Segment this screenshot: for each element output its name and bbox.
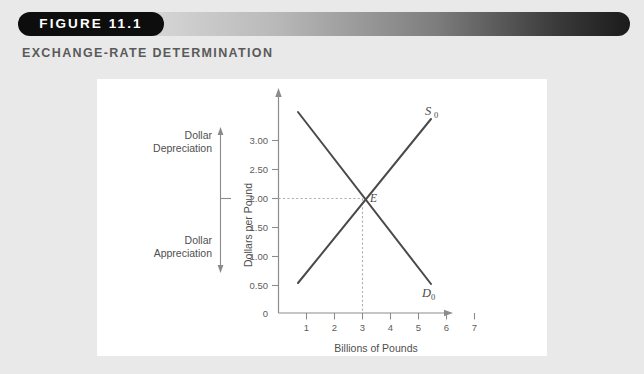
x-tick-label: 7 (472, 322, 477, 333)
equilibrium-point-label: E (369, 192, 377, 204)
dollar-appreciation-annotation: Dollar Appreciation (154, 234, 213, 259)
y-axis-title: Dollars per Pound (242, 183, 254, 267)
y-axis (275, 88, 281, 313)
figure-container: FIGURE 11.1 Exchange-Rate Determination … (0, 0, 644, 374)
x-axis (279, 310, 454, 316)
dollar-depreciation-line2: Depreciation (153, 142, 212, 154)
supply-label-subscript: 0 (434, 110, 438, 120)
y-tick-label: 0.50 (250, 280, 269, 291)
dollar-depreciation-annotation: Dollar Depreciation (153, 129, 212, 154)
x-axis-tick-labels: 1 2 3 4 5 6 7 (304, 322, 477, 333)
x-tick-label: 6 (444, 322, 449, 333)
supply-label-letter: S (425, 104, 432, 118)
x-axis-title: Billions of Pounds (334, 342, 417, 354)
dollar-appreciation-line2: Appreciation (154, 247, 213, 259)
y-tick-label: 3.00 (250, 135, 269, 146)
x-tick-label: 5 (416, 322, 421, 333)
dollar-depreciation-line1: Dollar (185, 129, 213, 141)
y-axis-ticks (272, 141, 279, 286)
x-tick-label: 1 (304, 322, 309, 333)
dollar-appreciation-line1: Dollar (185, 234, 213, 246)
x-tick-label: 3 (360, 322, 365, 333)
exchange-rate-chart: 3.00 2.50 2.00 1.50 1.00 0.50 0 1 2 3 4 … (0, 0, 644, 374)
y-tick-label: 0 (263, 308, 268, 319)
supply-curve-label: S 0 (425, 104, 438, 120)
exchange-rate-direction-arrow (218, 127, 231, 273)
y-tick-label: 2.50 (250, 164, 269, 175)
demand-curve-label: D 0 (421, 286, 435, 302)
demand-label-subscript: 0 (431, 292, 435, 302)
demand-label-letter: D (421, 286, 431, 300)
x-tick-label: 2 (332, 322, 337, 333)
x-tick-label: 4 (388, 322, 393, 333)
